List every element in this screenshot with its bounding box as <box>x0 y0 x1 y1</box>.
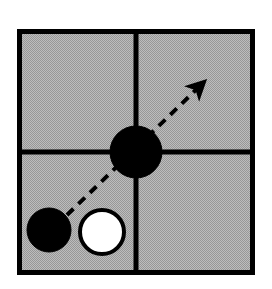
diagram-canvas <box>0 0 272 289</box>
diagram-figure <box>0 0 272 289</box>
stone-lower-left-white <box>80 210 124 254</box>
stone-lower-left-black <box>27 208 71 252</box>
stone-center-black <box>110 126 162 178</box>
